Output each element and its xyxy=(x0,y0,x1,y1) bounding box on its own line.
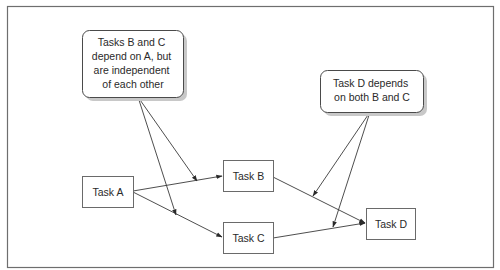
task-c-node: Task C xyxy=(224,223,274,254)
task-a-node: Task A xyxy=(83,177,134,208)
callout-bc: Tasks B and C depend on A, but are indep… xyxy=(83,31,188,102)
callout-d: Task D depends on both B and C xyxy=(321,71,428,117)
task-a-label: Task A xyxy=(93,186,124,198)
diagram-canvas: Tasks B and C depend on A, but are indep… xyxy=(0,0,500,270)
task-c-label: Task C xyxy=(232,232,265,244)
task-d-label: Task D xyxy=(375,218,408,230)
task-b-label: Task B xyxy=(233,170,265,182)
task-d-node: Task D xyxy=(367,209,416,240)
task-b-node: Task B xyxy=(224,161,274,192)
